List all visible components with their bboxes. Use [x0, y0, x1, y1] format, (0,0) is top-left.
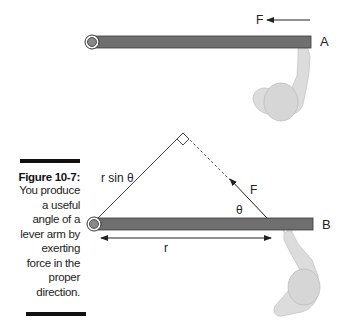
lever-arm-label: r sin θ: [101, 171, 134, 185]
force-label-b: F: [250, 183, 257, 197]
force-extension-line: [183, 133, 230, 180]
lever-bar-b: [95, 218, 313, 230]
diagram-b: r sin θ F θ r B: [87, 133, 331, 316]
lever-diagram: F A r sin θ F θ r B: [0, 0, 350, 327]
diagram-a: F A: [85, 13, 329, 121]
lever-bar-a: [93, 36, 311, 48]
label-a: A: [320, 34, 329, 49]
person-icon: [274, 227, 320, 316]
angle-label: θ: [236, 203, 243, 217]
person-icon: [253, 44, 310, 121]
right-angle-marker: [177, 133, 189, 145]
label-b: B: [322, 217, 331, 232]
force-label-a: F: [256, 13, 263, 27]
radius-label: r: [164, 241, 168, 255]
